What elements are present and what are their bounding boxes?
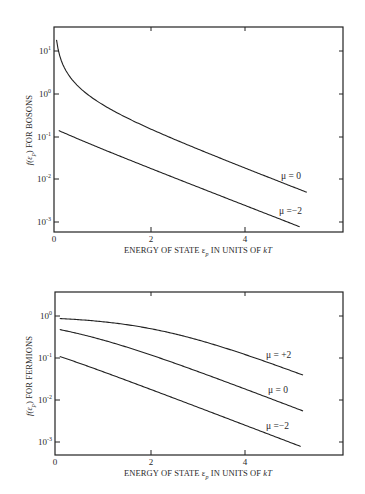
bosons-ytick-label: 10-3: [37, 216, 51, 227]
fermions-x-axis-title: ENERGY OF STATE εp IN UNITS OF kT: [124, 468, 273, 480]
bosons-x-axis-title: ENERGY OF STATE εp IN UNITS OF kT: [124, 245, 273, 257]
bosons-ytick-label: 101: [39, 45, 51, 56]
fermions-y-axis-title: f(εp) FOR FERMIONS: [24, 336, 36, 416]
bosons-ytick-label: 10-2: [37, 173, 51, 184]
bosons-ytick-label: 10-1: [37, 131, 51, 142]
fermions-xtick-label: 0: [53, 457, 58, 467]
curve-0: [57, 40, 307, 192]
curve-0: [60, 330, 303, 411]
bosons-xtick-label: 0: [52, 234, 57, 244]
bosons-chart: 101 100 10-1 10-2 10-3 0 2 4 ENERGY OF S…: [24, 27, 343, 257]
bosons-xtick-label: 4: [243, 234, 248, 244]
bosons-curve-label-mu0: μ = 0: [281, 171, 301, 181]
curve-+2: [60, 319, 303, 376]
curve-2: [59, 131, 300, 227]
fermions-curve-label-mu-2: μ =−2: [266, 421, 289, 431]
bosons-plot-frame: [54, 27, 343, 232]
bosons-y-axis-title: f(εp) FOR BOSONS: [24, 95, 36, 165]
fermions-ytick-label: 100: [40, 310, 52, 321]
curve-2: [60, 356, 301, 446]
fermions-ytick-label: 10-2: [38, 394, 52, 405]
fermions-ytick-label: 10-3: [38, 436, 52, 447]
figure: 101 100 10-1 10-2 10-3 0 2 4 ENERGY OF S…: [0, 0, 365, 494]
bosons-curve-label-mu-2: μ =−2: [279, 206, 302, 216]
fermions-chart: 100 10-1 10-2 10-3 0 2 4 ENERGY OF STATE…: [24, 292, 343, 480]
fermions-curve-label-mu+2: μ = +2: [266, 350, 292, 360]
fermions-curve-label-mu0: μ = 0: [268, 385, 288, 395]
bosons-curves: [57, 40, 307, 227]
fermions-xtick-label: 4: [243, 457, 248, 467]
fermions-yticks: [55, 316, 343, 442]
bosons-ytick-label: 100: [39, 88, 51, 99]
bosons-xtick-label: 2: [149, 234, 154, 244]
fermions-ytick-label: 10-1: [38, 352, 52, 363]
bosons-yticks: [54, 51, 343, 222]
fermions-xtick-label: 2: [149, 457, 154, 467]
